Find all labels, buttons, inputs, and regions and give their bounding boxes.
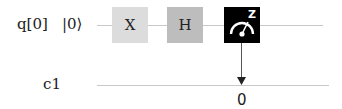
arrow-down-icon xyxy=(237,77,246,85)
measurement-gate[interactable]: Z xyxy=(224,7,260,43)
initial-state-label: |0⟩ xyxy=(62,17,82,32)
qubit-label: q[0] xyxy=(17,17,48,32)
x-gate-label: X xyxy=(125,16,136,34)
basis-label: Z xyxy=(248,8,256,21)
h-gate-label: H xyxy=(178,16,191,34)
classical-register-label: c1 xyxy=(43,77,61,92)
classical-wire-c1 xyxy=(97,85,329,86)
measurement-connector xyxy=(241,43,242,79)
measurement-output-bit: 0 xyxy=(237,91,247,109)
x-gate[interactable]: X xyxy=(112,7,148,43)
h-gate[interactable]: H xyxy=(167,7,203,43)
